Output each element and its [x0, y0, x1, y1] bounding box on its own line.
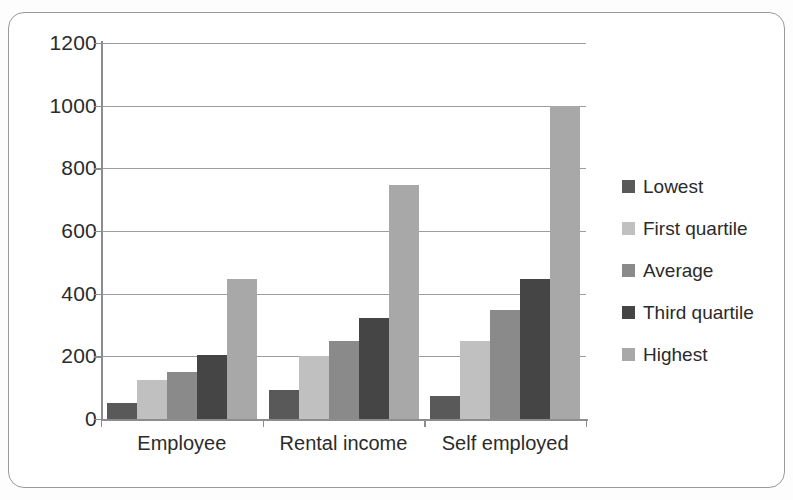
- plot-area: [101, 43, 586, 419]
- legend-swatch-icon: [622, 306, 635, 319]
- x-category-label: Employee: [101, 433, 263, 453]
- x-category-label: Self employed: [424, 433, 586, 453]
- legend-item: Lowest: [622, 165, 782, 207]
- y-tick-mark-0: [94, 419, 101, 420]
- x-tick-mark: [101, 419, 102, 427]
- x-category-label: Rental income: [263, 433, 425, 453]
- bar: [550, 106, 580, 419]
- y-tick-mark-1200: [94, 43, 101, 44]
- legend-item: First quartile: [622, 207, 782, 249]
- y-tick-label-600: 600: [21, 220, 97, 241]
- x-tick-mark: [263, 419, 264, 427]
- y-tick-label-400: 400: [21, 283, 97, 304]
- bar: [269, 390, 299, 419]
- bar-group: [269, 43, 419, 419]
- x-tick-mark: [586, 419, 587, 427]
- y-tick-mark-1000: [94, 106, 101, 107]
- legend-swatch-icon: [622, 348, 635, 361]
- bar: [227, 279, 257, 419]
- x-tick-mark: [424, 419, 425, 427]
- y-tick-mark-200: [94, 356, 101, 357]
- y-tick-mark-800: [94, 168, 101, 169]
- bar: [197, 355, 227, 419]
- scanned-page-background: 020040060080010001200 EmployeeRental inc…: [0, 0, 793, 500]
- y-tick-label-200: 200: [21, 345, 97, 366]
- y-axis-line: [101, 41, 103, 421]
- y-tick-label-800: 800: [21, 157, 97, 178]
- legend-swatch-icon: [622, 180, 635, 193]
- legend-item: Highest: [622, 333, 782, 375]
- bar: [359, 318, 389, 419]
- y-tick-label-1200: 1200: [21, 32, 97, 53]
- legend-label: Highest: [643, 345, 707, 364]
- legend-item: Third quartile: [622, 291, 782, 333]
- chart-legend: LowestFirst quartileAverageThird quartil…: [622, 165, 782, 375]
- y-axis-tick-labels: 020040060080010001200: [9, 13, 97, 500]
- legend-label: Average: [643, 261, 713, 280]
- x-axis-line: [101, 419, 588, 421]
- y-tick-label-0: 0: [21, 408, 97, 429]
- legend-label: First quartile: [643, 219, 748, 238]
- legend-swatch-icon: [622, 222, 635, 235]
- y-tick-label-1000: 1000: [21, 95, 97, 116]
- bar: [167, 372, 197, 419]
- y-tick-mark-400: [94, 294, 101, 295]
- bar-group: [107, 43, 257, 419]
- bar-group: [430, 43, 580, 419]
- legend-item: Average: [622, 249, 782, 291]
- bar: [329, 341, 359, 419]
- bar: [520, 279, 550, 419]
- bar: [460, 341, 490, 419]
- bar: [389, 185, 419, 419]
- bar: [430, 396, 460, 419]
- bar: [107, 403, 137, 419]
- y-tick-mark-600: [94, 231, 101, 232]
- bar: [299, 356, 329, 419]
- bar: [137, 380, 167, 419]
- chart-figure-frame: 020040060080010001200 EmployeeRental inc…: [8, 12, 785, 488]
- legend-label: Lowest: [643, 177, 703, 196]
- legend-label: Third quartile: [643, 303, 754, 322]
- bar: [490, 310, 520, 419]
- legend-swatch-icon: [622, 264, 635, 277]
